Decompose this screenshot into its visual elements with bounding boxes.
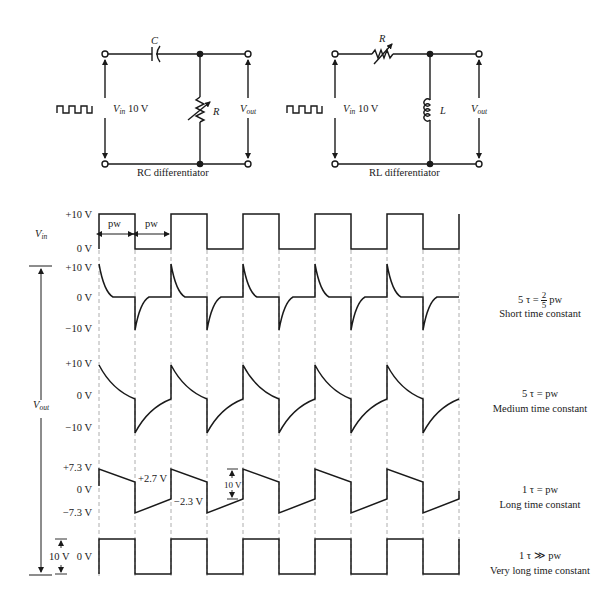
long-formula: 1 τ = pw <box>470 485 610 496</box>
rc-caption: RC differentiator <box>137 168 209 179</box>
vout-span-arrow <box>29 266 52 575</box>
long-plus-2-7-label: +2.7 V <box>138 474 167 485</box>
short-caption: Short time constant <box>470 309 610 320</box>
rc-vin-label: Vin 10 V <box>113 104 148 116</box>
tick-label: −7.3 V <box>40 508 92 519</box>
tick-label: 0 V <box>40 391 92 402</box>
rc-vout-label: Vout <box>240 104 256 116</box>
rl-inductor-label: L <box>440 106 446 117</box>
tick-label: −10 V <box>40 423 92 434</box>
tick-label: +10 V <box>40 359 92 370</box>
rc-capacitor-label: C <box>151 36 158 47</box>
long-minus-2-3-label: −2.3 V <box>174 497 203 508</box>
rl-circuit <box>287 44 482 167</box>
medium-formula: 5 τ = pw <box>470 389 610 400</box>
medium-caption: Medium time constant <box>470 404 610 415</box>
tick-label: 0 V <box>40 293 92 304</box>
rc-resistor-label: R <box>213 107 219 118</box>
rl-resistor-label: R <box>379 34 385 45</box>
pw-label-2: pw <box>145 219 158 230</box>
inductor-coil <box>424 99 430 121</box>
very-long-caption: Very long time constant <box>470 566 610 577</box>
pw-label-1: pw <box>108 219 121 230</box>
tick-label: +10 V <box>40 210 92 221</box>
tick-label: +7.3 V <box>40 463 92 474</box>
vin-axis-label: Vin <box>35 229 47 241</box>
very-long-10v-label: 10 V <box>48 552 71 563</box>
square-wave-symbol <box>287 106 322 113</box>
vout-axis-label: Vout <box>33 400 49 412</box>
rl-vout-label: Vout <box>471 104 487 116</box>
very-long-formula: 1 τ ≫ pw <box>470 551 610 562</box>
square-wave-symbol <box>57 106 92 113</box>
vout-medium-waveform <box>99 365 459 433</box>
tick-label: 0 V <box>40 244 92 255</box>
long-10v-label: 10 V <box>224 481 242 490</box>
long-caption: Long time constant <box>470 500 610 511</box>
tick-label: −10 V <box>40 324 92 335</box>
tick-label: 0 V <box>40 485 92 496</box>
rl-caption: RL differentiator <box>369 168 440 179</box>
rl-vin-label: Vin 10 V <box>343 104 378 116</box>
rc-circuit <box>57 46 251 167</box>
tick-label: +10 V <box>40 263 92 274</box>
vout-very-long-waveform <box>99 539 459 574</box>
